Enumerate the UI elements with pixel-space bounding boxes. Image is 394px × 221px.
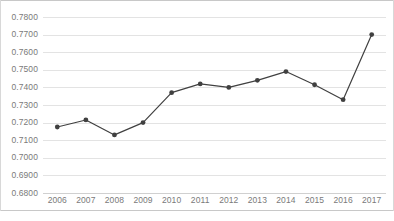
y-tick-label: 0.7300 bbox=[11, 101, 38, 110]
x-tick-label: 2015 bbox=[305, 196, 324, 205]
y-tick-label: 0.7100 bbox=[11, 136, 38, 145]
plot-area: 2006: 0.71752007: 0.72152008: 0.71302009… bbox=[43, 17, 386, 193]
y-tick-label: 0.7000 bbox=[11, 153, 38, 162]
data-point-marker: 2009: 0.7200 bbox=[141, 120, 146, 125]
chart-screenshot: 0.68000.69000.70000.71000.72000.73000.74… bbox=[0, 0, 394, 221]
data-point-marker: 2012: 0.7400 bbox=[226, 85, 231, 90]
x-tick-label: 2016 bbox=[333, 196, 352, 205]
x-tick-label: 2009 bbox=[133, 196, 152, 205]
data-point-marker: 2011: 0.7420 bbox=[198, 81, 203, 86]
data-point-marker: 2010: 0.7370 bbox=[169, 90, 174, 95]
x-tick-label: 2014 bbox=[276, 196, 295, 205]
y-tick-label: 0.7200 bbox=[11, 118, 38, 127]
y-tick-label: 0.7800 bbox=[11, 13, 38, 22]
data-point-marker: 2007: 0.7215 bbox=[83, 118, 88, 123]
y-tick-label: 0.7600 bbox=[11, 48, 38, 57]
data-point-marker: 2014: 0.7490 bbox=[284, 69, 289, 74]
data-point-marker: 2016: 0.7330 bbox=[341, 97, 346, 102]
y-tick-label: 0.6900 bbox=[11, 171, 38, 180]
series-line bbox=[57, 35, 371, 135]
x-tick-label: 2008 bbox=[105, 196, 124, 205]
line-chart: 0.68000.69000.70000.71000.72000.73000.74… bbox=[0, 0, 394, 211]
x-tick-label: 2017 bbox=[362, 196, 381, 205]
x-axis-line bbox=[43, 193, 386, 194]
y-tick-label: 0.7500 bbox=[11, 65, 38, 74]
data-point-marker: 2017: 0.7700 bbox=[369, 32, 374, 37]
x-tick-label: 2010 bbox=[162, 196, 181, 205]
x-tick-label: 2006 bbox=[48, 196, 67, 205]
data-point-marker: 2006: 0.7175 bbox=[55, 125, 60, 130]
y-axis: 0.68000.69000.70000.71000.72000.73000.74… bbox=[0, 0, 38, 211]
data-point-marker: 2015: 0.7415 bbox=[312, 82, 317, 87]
y-tick-label: 0.7700 bbox=[11, 30, 38, 39]
y-tick-label: 0.6800 bbox=[11, 189, 38, 198]
y-tick-label: 0.7400 bbox=[11, 83, 38, 92]
data-series: 2006: 0.71752007: 0.72152008: 0.71302009… bbox=[43, 17, 386, 193]
x-tick-label: 2013 bbox=[248, 196, 267, 205]
x-tick-label: 2011 bbox=[191, 196, 210, 205]
data-point-marker: 2008: 0.7130 bbox=[112, 133, 117, 138]
data-point-marker: 2013: 0.7440 bbox=[255, 78, 260, 83]
x-tick-label: 2007 bbox=[76, 196, 95, 205]
x-tick-label: 2012 bbox=[219, 196, 238, 205]
